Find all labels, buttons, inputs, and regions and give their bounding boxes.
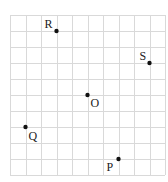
point-o: O [85, 93, 99, 110]
point-label: R [45, 17, 53, 31]
point-r: R [45, 17, 59, 33]
point-s: S [140, 49, 152, 65]
point-label: P [107, 160, 114, 174]
point-label: S [140, 49, 147, 63]
point-dot [116, 157, 120, 161]
point-dot [85, 93, 89, 97]
point-label: Q [29, 129, 38, 143]
point-dot [23, 125, 27, 129]
coordinate-grid-diagram: RSOQP [0, 0, 168, 182]
point-label: O [91, 96, 100, 110]
point-dot [147, 61, 151, 65]
point-dot [54, 29, 58, 33]
